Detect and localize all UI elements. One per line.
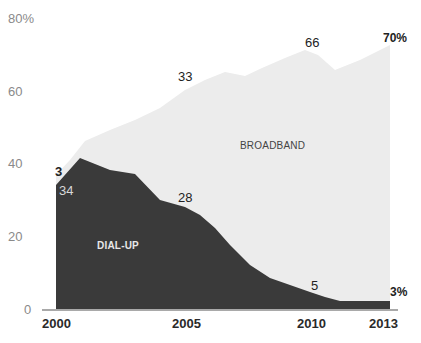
label-dialup-2013: 3% [390,285,407,299]
label-broadband-2000: 3 [55,164,62,179]
x-tick-2005: 2005 [172,316,201,331]
y-tick-20: 20 [8,229,22,244]
series-label-broadband: BROADBAND [240,140,305,151]
y-tick-60: 60 [8,84,22,99]
label-broadband-2005: 33 [178,69,192,84]
label-dialup-2005: 28 [178,190,192,205]
x-tick-2000: 2000 [42,316,71,331]
y-tick-40: 40 [8,156,22,171]
stacked-area-chart: 80% 60 40 20 0 2000 2005 2010 2013 3 34 … [0,0,421,343]
x-tick-2013: 2013 [369,316,398,331]
label-dialup-2010: 5 [311,278,318,293]
label-broadband-2010: 66 [305,35,319,50]
chart-plot-area [0,0,421,343]
y-tick-0: 0 [24,302,31,317]
x-tick-2010: 2010 [297,316,326,331]
label-broadband-2013: 70% [383,31,407,45]
series-label-dialup: DIAL-UP [97,240,139,251]
label-dialup-2000: 34 [59,183,73,198]
y-tick-80: 80% [8,11,34,26]
